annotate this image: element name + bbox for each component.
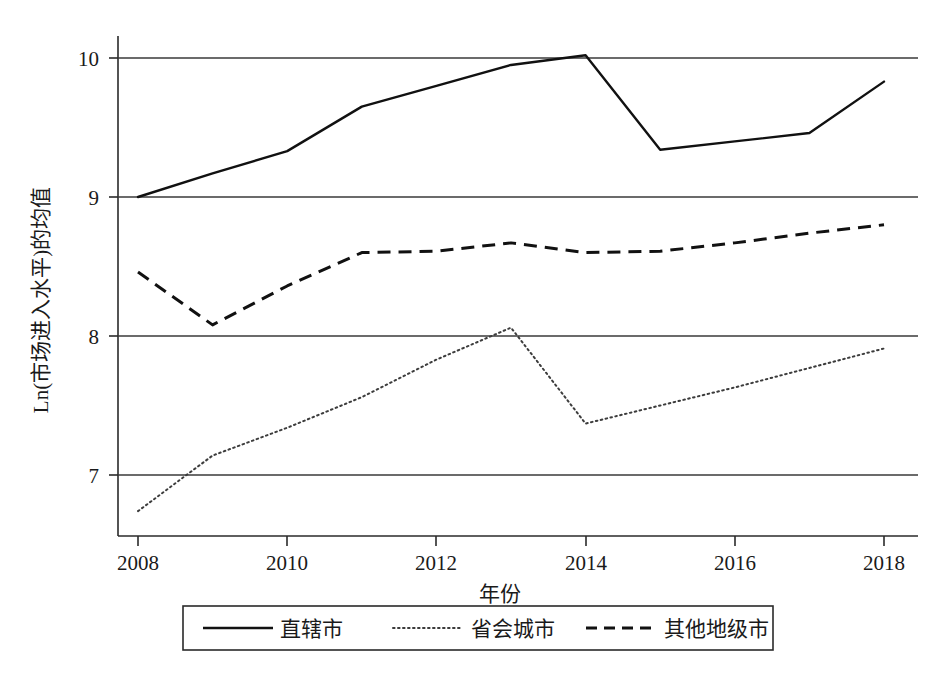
y-tick-label-7: 7 <box>89 464 100 488</box>
x-tick-labels: 2008 2010 2012 2014 2016 2018 <box>117 551 905 575</box>
y-tick-label-10: 10 <box>78 47 99 71</box>
series-line-其他地级市 <box>138 225 884 325</box>
y-axis-title: Ln(市场进入水平)的均值 <box>29 187 53 413</box>
legend-label-0: 直辖市 <box>280 617 343 641</box>
y-tick-label-9: 9 <box>89 186 100 210</box>
y-tick-marks <box>109 58 118 475</box>
y-tick-label-8: 8 <box>89 325 100 349</box>
legend-label-1: 省会城市 <box>471 617 555 641</box>
x-tick-label-2016: 2016 <box>714 551 756 575</box>
data-series <box>138 55 884 511</box>
y-tick-labels: 10 9 8 7 <box>78 47 99 488</box>
x-tick-label-2012: 2012 <box>415 551 457 575</box>
chart-legend: 直辖市 省会城市 其他地级市 <box>183 606 773 650</box>
series-line-直辖市 <box>138 55 884 197</box>
gridlines <box>118 58 918 475</box>
series-line-省会城市 <box>138 328 884 511</box>
plot-axes <box>118 36 918 536</box>
x-tick-label-2010: 2010 <box>266 551 308 575</box>
x-tick-marks <box>138 536 884 546</box>
x-tick-label-2018: 2018 <box>863 551 905 575</box>
x-tick-label-2008: 2008 <box>117 551 159 575</box>
x-tick-label-2014: 2014 <box>565 551 608 575</box>
chart-figure: 10 9 8 7 2008 2010 2012 2014 2016 2018 年… <box>0 0 947 688</box>
x-axis-title: 年份 <box>479 582 521 606</box>
legend-label-2: 其他地级市 <box>664 617 769 641</box>
line-chart: 10 9 8 7 2008 2010 2012 2014 2016 2018 年… <box>0 0 947 688</box>
